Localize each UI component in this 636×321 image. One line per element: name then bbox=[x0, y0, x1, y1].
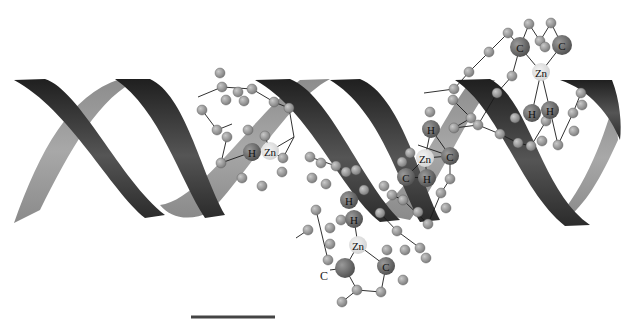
atom-small bbox=[445, 174, 455, 184]
atom-small bbox=[331, 161, 341, 171]
atom-small bbox=[568, 108, 578, 118]
atom-small bbox=[303, 225, 313, 235]
atom-label: C bbox=[558, 40, 565, 52]
atom-small bbox=[421, 253, 431, 263]
atom-small bbox=[321, 179, 331, 189]
atom-small bbox=[217, 82, 227, 92]
atom-small bbox=[239, 96, 249, 106]
atom-label: H bbox=[546, 105, 554, 117]
atom-small bbox=[569, 126, 579, 136]
atom-small bbox=[397, 157, 407, 167]
atom-small bbox=[311, 205, 321, 215]
atom-label: Zn bbox=[419, 153, 432, 165]
atom-small bbox=[492, 88, 502, 98]
atom-small bbox=[278, 153, 288, 163]
atom-small bbox=[305, 152, 315, 162]
atom-small bbox=[405, 148, 415, 158]
atom-small bbox=[351, 165, 361, 175]
atom-small bbox=[449, 84, 459, 94]
atom-small bbox=[415, 243, 425, 253]
atom-small bbox=[400, 245, 410, 255]
atom-small bbox=[398, 275, 408, 285]
atom-small bbox=[398, 195, 408, 205]
atom-small bbox=[359, 185, 369, 195]
atom-small bbox=[392, 226, 402, 236]
atom-small bbox=[284, 103, 294, 113]
atom-label: H bbox=[345, 195, 353, 207]
atom-small bbox=[375, 208, 385, 218]
atom-small bbox=[436, 188, 446, 198]
atom-small bbox=[341, 167, 351, 177]
atom-small bbox=[537, 136, 547, 146]
atom-small bbox=[553, 140, 563, 150]
atom-small bbox=[382, 245, 392, 255]
atom-label: H bbox=[423, 173, 431, 185]
atom-small bbox=[260, 131, 270, 141]
atom-small bbox=[221, 95, 231, 105]
atom-small bbox=[212, 125, 222, 135]
atom-small bbox=[387, 190, 397, 200]
atom-small bbox=[546, 18, 556, 28]
atom-small bbox=[413, 207, 423, 217]
atom-label: H bbox=[248, 147, 256, 159]
atom-small bbox=[423, 219, 433, 229]
atom-small bbox=[243, 125, 253, 135]
atom-label: Zn bbox=[352, 240, 365, 252]
atom-small bbox=[484, 47, 494, 57]
atom-small bbox=[503, 28, 513, 38]
atom-small bbox=[222, 132, 232, 142]
atom-small bbox=[323, 255, 333, 265]
atom-small bbox=[448, 95, 458, 105]
bond-line bbox=[316, 210, 328, 260]
atom-large bbox=[335, 258, 355, 278]
atom-small bbox=[325, 223, 335, 233]
atom-small bbox=[316, 158, 326, 168]
atom-small bbox=[510, 113, 520, 123]
atom-small bbox=[540, 42, 550, 52]
atom-small bbox=[524, 19, 534, 29]
atom-small bbox=[269, 97, 279, 107]
atom-label: Zn bbox=[535, 67, 548, 79]
atom-label: C bbox=[402, 172, 409, 184]
atom-small bbox=[216, 158, 226, 168]
atom-label: C bbox=[446, 151, 453, 163]
atom-label: C bbox=[382, 261, 389, 273]
atom-label: H bbox=[528, 108, 536, 120]
atom-small bbox=[352, 285, 362, 295]
atom-small bbox=[425, 107, 435, 117]
atom-small bbox=[197, 105, 207, 115]
atom-small bbox=[247, 84, 257, 94]
atom-label: H bbox=[427, 124, 435, 136]
atom-small bbox=[577, 100, 587, 110]
atom-label: Zn bbox=[264, 146, 277, 158]
atom-small bbox=[526, 141, 536, 151]
atom-small bbox=[441, 203, 451, 213]
atom-small bbox=[325, 239, 335, 249]
atom-label: C bbox=[516, 42, 523, 54]
atom-label: C bbox=[320, 269, 328, 283]
atom-label: H bbox=[350, 214, 358, 226]
atom-small bbox=[507, 71, 517, 81]
atom-small bbox=[336, 215, 346, 225]
atom-small bbox=[464, 67, 474, 77]
atom-small bbox=[473, 120, 483, 130]
atom-small bbox=[257, 181, 267, 191]
atom-small bbox=[277, 167, 287, 177]
atom-small bbox=[337, 297, 347, 307]
atom-small bbox=[237, 173, 247, 183]
atom-small bbox=[495, 129, 505, 139]
atom-small bbox=[376, 287, 386, 297]
atom-small bbox=[233, 87, 243, 97]
atom-small bbox=[449, 123, 459, 133]
atom-small bbox=[513, 138, 523, 148]
atom-small bbox=[379, 181, 389, 191]
atom-small bbox=[576, 88, 586, 98]
dna-zinc-finger-figure: HZnHHZnCCHZnCCHCCZnHH bbox=[0, 0, 636, 321]
atom-small bbox=[215, 68, 225, 78]
atom-small bbox=[307, 173, 317, 183]
